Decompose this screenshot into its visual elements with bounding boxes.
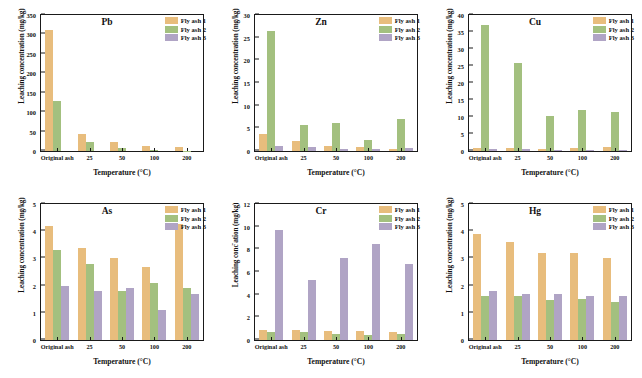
- x-tick-mark: [615, 148, 616, 152]
- bar-fly-ash-1: [259, 330, 267, 340]
- legend-swatch-icon: [593, 34, 606, 41]
- x-tick-mark: [485, 148, 486, 152]
- x-tick-label: 50: [333, 343, 339, 350]
- y-tick-label: 10: [244, 223, 255, 230]
- legend-item: Fly ash 1: [593, 17, 634, 24]
- bar-fly-ash-2: [514, 296, 522, 340]
- x-tick-mark: [57, 148, 58, 152]
- x-tick-mark: [271, 148, 272, 152]
- legend-label: Fly ash 1: [395, 206, 420, 213]
- x-axis-label: Temperature (°C): [468, 168, 632, 177]
- bar-fly-ash-3: [191, 294, 199, 340]
- bar-fly-ash-2: [481, 296, 489, 340]
- bar-fly-ash-2: [514, 63, 522, 151]
- bar-fly-ash-2: [86, 264, 94, 340]
- bar-fly-ash-3: [522, 149, 530, 151]
- bar-fly-ash-1: [110, 142, 118, 151]
- bar-fly-ash-2: [183, 288, 191, 340]
- bar-fly-ash-3: [61, 286, 69, 340]
- y-tick-label: 5: [461, 201, 469, 208]
- legend-label: Fly ash 2: [181, 26, 206, 33]
- bar-fly-ash-3: [275, 230, 283, 340]
- bar-group: [287, 15, 319, 151]
- bar-fly-ash-1: [259, 134, 267, 151]
- legend-item: Fly ash 3: [379, 223, 420, 230]
- y-tick-label: 5: [247, 125, 255, 132]
- bar-fly-ash-1: [78, 248, 86, 340]
- x-axis-label: Temperature (°C): [254, 357, 418, 366]
- x-tick-label: 50: [119, 154, 125, 161]
- x-tick-label: 25: [301, 343, 307, 350]
- y-tick-label: 8: [247, 246, 255, 253]
- x-tick-label: 50: [547, 154, 553, 161]
- x-tick-label: 200: [610, 154, 619, 161]
- bar-fly-ash-1: [570, 148, 578, 151]
- x-tick-mark: [122, 148, 123, 152]
- y-tick-label: 0: [247, 337, 255, 344]
- y-tick-label: 35: [458, 29, 469, 36]
- legend-label: Fly ash 3: [181, 223, 206, 230]
- legend-item: Fly ash 2: [165, 26, 206, 33]
- x-tick-mark: [550, 337, 551, 341]
- bar-fly-ash-3: [522, 294, 530, 340]
- bar-fly-ash-1: [175, 147, 183, 151]
- y-tick-label: 3: [461, 255, 469, 262]
- bar-fly-ash-2: [578, 299, 586, 340]
- legend-swatch-icon: [379, 206, 392, 213]
- bar-fly-ash-1: [538, 149, 546, 151]
- legend-label: Fly ash 2: [609, 26, 634, 33]
- legend-swatch-icon: [165, 206, 178, 213]
- y-tick-label: 1: [461, 309, 469, 316]
- legend-item: Fly ash 1: [165, 206, 206, 213]
- bar-group: [320, 204, 352, 340]
- y-tick-label: 25: [244, 34, 255, 41]
- x-tick-label: Original ash: [255, 343, 288, 350]
- x-tick-mark: [187, 337, 188, 341]
- legend-label: Fly ash 1: [609, 17, 634, 24]
- bar-group: [73, 204, 105, 340]
- y-tick-label: 25: [458, 63, 469, 70]
- y-axis-label: Leaching concentration (mg/kg): [18, 0, 26, 119]
- bar-fly-ash-2: [546, 116, 554, 151]
- bar-fly-ash-1: [324, 331, 332, 340]
- x-tick-mark: [550, 148, 551, 152]
- y-tick-label: 150: [26, 89, 41, 96]
- bar-group: [41, 15, 73, 151]
- y-tick-label: 0: [33, 148, 41, 155]
- bar-fly-ash-3: [372, 149, 380, 151]
- y-tick-label: 10: [458, 114, 469, 121]
- y-axis-label: Leaching conc᷈ ation (mg/kg): [232, 182, 240, 308]
- legend-item: Fly ash 2: [379, 26, 420, 33]
- legend-item: Fly ash 2: [593, 215, 634, 222]
- legend: Fly ash 1Fly ash 2Fly ash 3: [593, 17, 634, 41]
- y-tick-label: 4: [461, 228, 469, 235]
- bar-fly-ash-2: [481, 25, 489, 151]
- y-axis-label: Leaching concentration (mg/kg): [446, 0, 454, 119]
- bar-fly-ash-3: [126, 288, 134, 340]
- bar-fly-ash-2: [267, 31, 275, 151]
- legend-swatch-icon: [165, 26, 178, 33]
- bar-fly-ash-3: [372, 244, 380, 340]
- x-tick-label: 25: [87, 343, 93, 350]
- y-tick-label: 5: [461, 131, 469, 138]
- x-axis-label: Temperature (°C): [40, 168, 204, 177]
- bar-fly-ash-3: [405, 264, 413, 340]
- x-tick-label: 200: [182, 154, 191, 161]
- y-tick-label: 15: [458, 97, 469, 104]
- bar-fly-ash-1: [506, 148, 514, 151]
- chart-panel-hg: Leaching concentration (mg/kg)012345Orig…: [428, 189, 642, 378]
- x-tick-mark: [57, 337, 58, 341]
- x-tick-label: 50: [547, 343, 553, 350]
- bar-group: [106, 204, 138, 340]
- bar-fly-ash-1: [356, 331, 364, 340]
- y-tick-label: 4: [247, 291, 255, 298]
- x-tick-mark: [401, 337, 402, 341]
- legend-item: Fly ash 1: [593, 206, 634, 213]
- bar-fly-ash-3: [586, 296, 594, 340]
- bar-fly-ash-1: [603, 258, 611, 340]
- x-tick-mark: [122, 337, 123, 341]
- bar-fly-ash-1: [389, 332, 397, 340]
- bar-fly-ash-1: [142, 146, 150, 151]
- x-tick-label: Original ash: [255, 154, 288, 161]
- bar-fly-ash-3: [489, 149, 497, 151]
